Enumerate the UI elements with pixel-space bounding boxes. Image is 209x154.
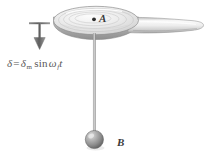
equation-equals: = — [12, 57, 20, 69]
equation-sin: sin — [32, 57, 48, 69]
point-a-marker — [92, 17, 96, 21]
pendulum-bob-sphere — [85, 130, 104, 150]
displacement-equation: δ=δmsinωft — [7, 54, 107, 72]
down-arrow-icon — [29, 22, 50, 49]
equation-time: t — [59, 57, 62, 69]
physics-figure: δ=δmsinωft A B — [0, 0, 209, 154]
paddle-body — [54, 6, 204, 39]
label-ball-b: B — [117, 137, 124, 148]
equation-omega: ω — [49, 57, 57, 69]
label-point-a: A — [99, 13, 106, 24]
pendulum-rod — [93, 33, 95, 136]
